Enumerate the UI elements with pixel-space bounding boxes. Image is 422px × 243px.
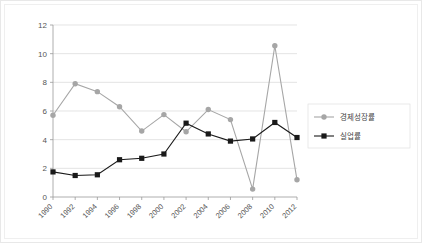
- data-point-marker: [95, 89, 100, 94]
- data-point-marker: [117, 157, 122, 162]
- y-axis-ticks: 024681012: [38, 21, 53, 202]
- y-tick-label: 8: [43, 78, 48, 87]
- gridlines: [53, 25, 297, 168]
- data-point-marker: [139, 128, 144, 133]
- data-point-marker: [183, 121, 188, 126]
- x-tick-label: 1992: [58, 202, 76, 220]
- x-tick-label: 1998: [125, 202, 143, 220]
- series-line-2: [53, 122, 297, 175]
- x-tick-label: 2008: [236, 202, 254, 220]
- data-point-marker: [161, 112, 166, 117]
- x-tick-label: 2002: [169, 202, 187, 220]
- chart-legend: 경제성장률실업률: [308, 104, 410, 148]
- legend-marker-circle: [321, 114, 326, 119]
- data-point-marker: [272, 43, 277, 48]
- data-point-marker: [272, 120, 277, 125]
- data-point-marker: [73, 173, 78, 178]
- x-tick-label: 2004: [192, 202, 210, 220]
- chart-figure: 024681012 199019921994199619982000200220…: [0, 0, 422, 243]
- x-tick-label: 2006: [214, 202, 232, 220]
- data-point-marker: [117, 104, 122, 109]
- x-tick-label: 2012: [280, 202, 298, 220]
- y-tick-label: 0: [43, 193, 48, 202]
- data-point-marker: [294, 135, 299, 140]
- data-point-marker: [206, 131, 211, 136]
- y-tick-label: 6: [43, 107, 48, 116]
- line-chart: 024681012 199019921994199619982000200220…: [1, 1, 422, 243]
- data-point-marker: [139, 156, 144, 161]
- legend-marker-square: [321, 133, 326, 138]
- legend-label-1: 경제성장률: [340, 112, 375, 122]
- x-tick-label: 2010: [258, 202, 276, 220]
- data-point-marker: [183, 129, 188, 134]
- y-tick-label: 4: [43, 136, 48, 145]
- y-tick-label: 12: [38, 21, 47, 30]
- data-point-marker: [228, 117, 233, 122]
- x-tick-label: 2000: [147, 202, 165, 220]
- series-layer: [50, 43, 299, 192]
- data-point-marker: [294, 177, 299, 182]
- x-axis-ticks: 1990199219941996199820002002200420062008…: [36, 197, 298, 220]
- data-point-marker: [206, 107, 211, 112]
- legend-box: [308, 104, 410, 148]
- series-line-1: [53, 46, 297, 189]
- data-point-marker: [250, 136, 255, 141]
- x-tick-label: 1996: [103, 202, 121, 220]
- y-tick-label: 2: [43, 164, 48, 173]
- x-tick-label: 1990: [36, 202, 54, 220]
- data-point-marker: [50, 113, 55, 118]
- data-point-marker: [72, 81, 77, 86]
- y-tick-label: 10: [38, 50, 47, 59]
- data-point-marker: [250, 186, 255, 191]
- data-point-marker: [161, 151, 166, 156]
- data-point-marker: [50, 169, 55, 174]
- data-point-marker: [95, 172, 100, 177]
- x-tick-label: 1994: [81, 202, 99, 220]
- legend-label-2: 실업률: [340, 131, 361, 141]
- data-point-marker: [228, 139, 233, 144]
